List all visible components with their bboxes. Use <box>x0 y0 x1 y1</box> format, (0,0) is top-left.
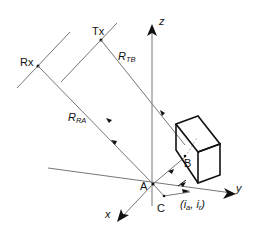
ray-a-to-b <box>153 157 185 184</box>
b-label: B <box>184 157 191 169</box>
c-label: C <box>157 202 165 214</box>
geometry-diagram: Rx Tx RTB RRA z y x A B C (ia, ir) <box>0 0 256 232</box>
tx-label: Tx <box>92 25 105 37</box>
a-point <box>152 183 155 186</box>
c-point <box>163 195 166 198</box>
tx-antenna-line <box>61 23 117 82</box>
y-axis-label: y <box>235 182 243 194</box>
z-axis-label: z <box>158 15 165 27</box>
x-axis <box>120 184 153 219</box>
coords-label: (ia, ir) <box>180 198 205 212</box>
ray-ra-arrow-icon <box>106 118 112 123</box>
rx-label: Rx <box>20 56 34 68</box>
x-axis-label: x <box>104 208 111 220</box>
r-tb-label: RTB <box>118 50 136 64</box>
y-axis-arrow-icon <box>223 188 236 199</box>
a-label: A <box>140 180 148 192</box>
ray-ab-arrow-icon <box>168 169 174 174</box>
ray-tx-to-b <box>101 40 185 145</box>
target-box <box>176 116 220 183</box>
